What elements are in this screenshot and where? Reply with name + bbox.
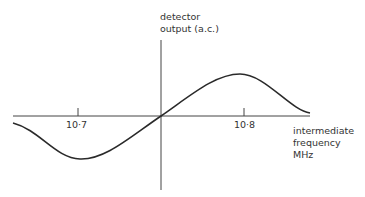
- y-axis-label-line2: output (a.c.): [160, 23, 219, 34]
- tick-label-10-7: 10·7: [66, 119, 87, 130]
- x-axis-label-line1: intermediate: [293, 125, 354, 136]
- x-axis-label-line2: frequency: [293, 137, 341, 148]
- y-axis-label-line1: detector: [160, 11, 200, 22]
- tick-label-10-8: 10·8: [234, 119, 255, 130]
- x-axis-label-line3: MHz: [293, 149, 313, 160]
